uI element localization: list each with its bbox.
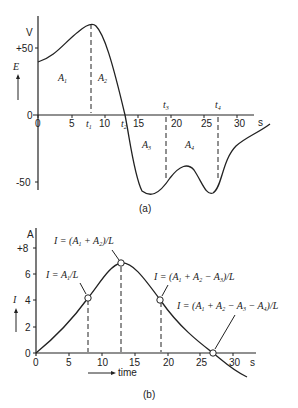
t1-label: t1 bbox=[86, 118, 92, 130]
area-a3: A3 bbox=[141, 139, 151, 151]
x-tick-20: 20 bbox=[171, 118, 183, 129]
annotation-3: I = (A1 + A2 − A3)/L bbox=[153, 271, 235, 283]
x-tick-0: 0 bbox=[33, 357, 39, 368]
t3-label: t3 bbox=[163, 99, 169, 111]
marker-t4 bbox=[210, 350, 216, 356]
x-tick-10: 10 bbox=[97, 357, 109, 368]
y-label: E bbox=[12, 61, 19, 72]
time-label: time bbox=[118, 367, 137, 378]
y-unit: V bbox=[26, 27, 33, 38]
area-a1: A1 bbox=[57, 72, 67, 84]
y-label: I bbox=[12, 294, 17, 305]
chart-a: V +50 0 -50 E 0 5 10 15 20 25 30 s t1 t2… bbox=[12, 16, 270, 214]
y-tick-4: 4 bbox=[25, 295, 31, 306]
x-tick-30: 30 bbox=[234, 118, 246, 129]
y-tick-8: +8 bbox=[17, 243, 29, 254]
x-tick-0: 0 bbox=[35, 118, 41, 129]
annotation-4: I = (A1 + A2 − A3 − A4)/L bbox=[176, 300, 279, 312]
x-unit: s bbox=[250, 357, 255, 368]
marker-t2 bbox=[118, 260, 124, 266]
x-unit: s bbox=[258, 117, 263, 128]
annotation-2: I = (A1 + A2)/L bbox=[53, 235, 114, 247]
x-tick-15: 15 bbox=[133, 118, 145, 129]
x-tick-5: 5 bbox=[66, 357, 72, 368]
area-a2: A2 bbox=[97, 72, 107, 84]
x-tick-10: 10 bbox=[99, 118, 111, 129]
caption-b: (b) bbox=[143, 389, 155, 400]
x-tick-25: 25 bbox=[196, 357, 208, 368]
e-curve bbox=[38, 24, 270, 194]
x-tick-25: 25 bbox=[201, 118, 213, 129]
x-tick-5: 5 bbox=[69, 118, 75, 129]
y-tick-0: 0 bbox=[27, 110, 33, 121]
marker-t1 bbox=[85, 295, 91, 301]
t4-label: t4 bbox=[215, 99, 221, 111]
annotation-1: I = A1/L bbox=[45, 269, 79, 281]
x-tick-20: 20 bbox=[163, 357, 175, 368]
marker-t3 bbox=[157, 297, 163, 303]
figure: V +50 0 -50 E 0 5 10 15 20 25 30 s t1 t2… bbox=[0, 0, 298, 408]
y-unit: A bbox=[27, 229, 34, 240]
y-tick-6: 6 bbox=[25, 269, 31, 280]
chart-b: A +8 6 4 2 0 I 0 5 10 15 20 25 30 s time bbox=[12, 228, 279, 400]
y-tick-2: 2 bbox=[25, 322, 31, 333]
y-tick-neg50: -50 bbox=[16, 177, 31, 188]
y-tick-50: +50 bbox=[16, 43, 33, 54]
y-tick-0: 0 bbox=[25, 348, 31, 359]
caption-a: (a) bbox=[139, 203, 151, 214]
area-a4: A4 bbox=[184, 139, 194, 151]
